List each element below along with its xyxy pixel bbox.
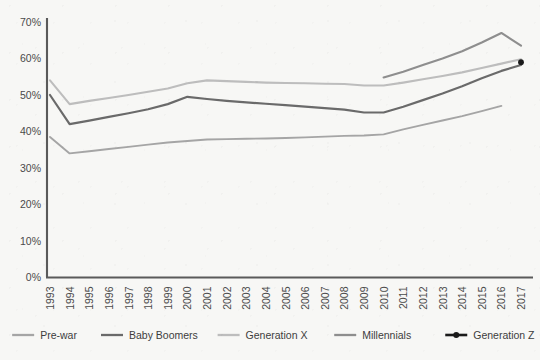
- x-tick-1999: 1999: [162, 286, 174, 310]
- x-tick-2008: 2008: [338, 286, 350, 310]
- x-tick-2010: 2010: [378, 286, 390, 310]
- line-chart: 0%10%20%30%40%50%60%70% 1993199419951996…: [0, 0, 540, 360]
- data-series-group: [50, 33, 524, 153]
- legend-label-pre-war: Pre-war: [40, 329, 77, 341]
- x-tick-1996: 1996: [103, 286, 115, 310]
- y-tick-50%: 50%: [20, 89, 41, 101]
- x-tick-2016: 2016: [495, 286, 507, 310]
- x-tick-2011: 2011: [397, 286, 409, 309]
- legend-marker-generation-z: [453, 332, 459, 338]
- x-tick-2007: 2007: [319, 286, 331, 310]
- x-tick-1994: 1994: [64, 286, 76, 310]
- y-tick-40%: 40%: [20, 125, 41, 137]
- legend-label-generation-x: Generation X: [246, 329, 308, 341]
- y-tick-70%: 70%: [20, 16, 41, 28]
- y-tick-10%: 10%: [20, 235, 41, 247]
- x-tick-2004: 2004: [260, 286, 272, 310]
- y-tick-30%: 30%: [20, 162, 41, 174]
- x-tick-2002: 2002: [221, 286, 233, 310]
- chart-plot-area: 0%10%20%30%40%50%60%70% 1993199419951996…: [0, 0, 540, 360]
- y-axis-tick-labels: 0%10%20%30%40%50%60%70%: [20, 16, 41, 284]
- legend-item-generation-z[interactable]: Generation Z: [445, 329, 535, 341]
- legend-label-millennials: Millennials: [362, 329, 411, 341]
- x-tick-1998: 1998: [142, 286, 154, 310]
- x-tick-2000: 2000: [181, 286, 193, 310]
- x-tick-2009: 2009: [358, 286, 370, 310]
- x-tick-2013: 2013: [437, 286, 449, 310]
- x-tick-2015: 2015: [476, 286, 488, 310]
- y-tick-0%: 0%: [26, 271, 41, 283]
- y-tick-20%: 20%: [20, 198, 41, 210]
- x-tick-1997: 1997: [123, 286, 135, 310]
- legend-item-generation-x[interactable]: Generation X: [218, 329, 308, 341]
- x-tick-2006: 2006: [299, 286, 311, 310]
- x-tick-2012: 2012: [417, 286, 429, 310]
- x-tick-1995: 1995: [83, 286, 95, 310]
- series-line-generation-x: [50, 59, 521, 104]
- x-tick-2014: 2014: [456, 286, 468, 310]
- legend-item-baby-boomers[interactable]: Baby Boomers: [101, 329, 198, 341]
- legend-label-baby-boomers: Baby Boomers: [129, 329, 198, 341]
- x-tick-2003: 2003: [240, 286, 252, 310]
- legend-label-generation-z: Generation Z: [473, 329, 535, 341]
- legend-item-pre-war[interactable]: Pre-war: [12, 329, 77, 341]
- x-tick-2001: 2001: [201, 286, 213, 310]
- y-tick-60%: 60%: [20, 52, 41, 64]
- x-axis-tick-labels: 1993199419951996199719981999200020012002…: [44, 286, 527, 310]
- x-tick-2005: 2005: [280, 286, 292, 310]
- series-marker-generation-z: [518, 59, 524, 65]
- chart-legend: Pre-warBaby BoomersGeneration XMillennia…: [12, 329, 535, 341]
- x-tick-2017: 2017: [515, 286, 527, 310]
- x-tick-1993: 1993: [44, 286, 56, 310]
- legend-item-millennials[interactable]: Millennials: [334, 329, 411, 341]
- series-line-pre-war: [50, 106, 501, 153]
